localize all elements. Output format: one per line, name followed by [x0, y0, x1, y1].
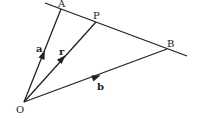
- vector-diagram: O A P B a r b: [0, 0, 200, 138]
- point-label-b: B: [167, 38, 174, 49]
- vector-label-b: b: [97, 81, 104, 92]
- point-label-a: A: [57, 0, 66, 9]
- line-ab: [45, 3, 187, 56]
- vector-label-a: a: [36, 43, 43, 54]
- point-label-p: P: [93, 10, 100, 21]
- vector-label-r: r: [59, 46, 65, 57]
- point-label-o: O: [16, 104, 24, 115]
